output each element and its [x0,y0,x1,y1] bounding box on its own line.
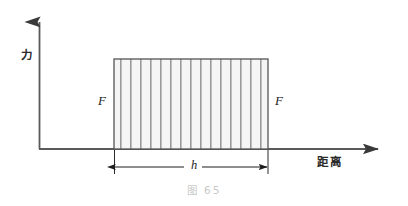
figure-drawing [0,0,408,206]
force-label-left: F [98,94,106,107]
figure-caption: 图 65 [0,185,408,196]
force-distance-figure: 力 距离 F F h 图 65 [0,0,408,206]
x-axis-label: 距离 [317,157,343,169]
force-area-rectangle [114,59,268,149]
distance-dimension-label: h [186,159,202,172]
y-axis-label: 力 [21,50,32,62]
force-label-right: F [275,94,283,107]
